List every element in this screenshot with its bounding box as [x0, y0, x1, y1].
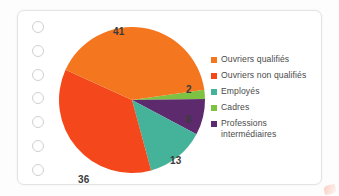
legend-swatch-icon: [211, 73, 217, 79]
circle-hole-icon: [32, 164, 44, 176]
legend-item: Ouvriers qualifiés: [211, 54, 321, 65]
circle-hole-icon: [32, 140, 44, 152]
legend-swatch-icon: [211, 89, 217, 95]
circle-hole-icon: [32, 92, 44, 104]
legend-item: Employés: [211, 86, 321, 97]
pie-chart-figure: 41 36 13 2 8 Ouvriers qualifiés Ouvriers…: [58, 14, 318, 184]
legend-item-label: Ouvriers non qualifiés: [221, 70, 306, 81]
legend-swatch-icon: [211, 105, 217, 111]
legend-item: Ouvriers non qualifiés: [211, 70, 321, 81]
binder-holes: [27, 21, 49, 176]
pie-chart: 41 36 13 2 8: [58, 26, 206, 174]
legend-swatch-icon: [211, 57, 217, 63]
chart-legend: Ouvriers qualifiés Ouvriers non qualifié…: [211, 54, 321, 145]
pie-slices: [59, 27, 205, 173]
legend-item: Professions intermédiaires: [211, 118, 321, 139]
circle-hole-icon: [32, 69, 44, 81]
legend-item-label: Cadres: [221, 102, 249, 113]
legend-item-label: Employés: [221, 86, 260, 97]
legend-item-label: Professions intermédiaires: [221, 118, 321, 139]
circle-hole-icon: [32, 21, 44, 33]
slice-value-label: 2: [186, 84, 192, 95]
slice-value-label: 36: [78, 174, 90, 185]
legend-item-label: Ouvriers qualifiés: [221, 54, 289, 65]
slice-value-label: 13: [170, 155, 182, 166]
paper-smudge: [323, 184, 337, 195]
circle-hole-icon: [32, 45, 44, 57]
legend-item: Cadres: [211, 102, 321, 113]
circle-hole-icon: [32, 116, 44, 128]
pie-chart-svg: [58, 26, 206, 174]
screenshot-root: 41 36 13 2 8 Ouvriers qualifiés Ouvriers…: [0, 0, 339, 196]
legend-swatch-icon: [211, 121, 217, 127]
slice-value-label: 41: [113, 26, 125, 37]
slice-value-label: 8: [186, 114, 192, 125]
